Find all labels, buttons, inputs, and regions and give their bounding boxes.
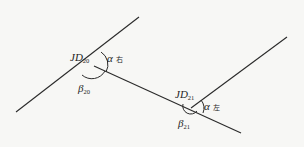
beta-20-arc — [82, 71, 105, 79]
jd20-label: JD20 — [70, 51, 89, 64]
alpha-right-label: α右 — [107, 52, 123, 64]
beta20-label: β20 — [77, 82, 90, 95]
route-line-3 — [191, 37, 287, 108]
route-line-2 — [94, 66, 241, 133]
route-diagram: JD20 α右 β20 JD21 α左 β21 — [0, 0, 304, 147]
beta21-label: β21 — [177, 117, 190, 130]
route-line-1 — [16, 17, 139, 112]
alpha-left-label: α左 — [204, 100, 220, 112]
jd21-label: JD21 — [175, 88, 194, 101]
